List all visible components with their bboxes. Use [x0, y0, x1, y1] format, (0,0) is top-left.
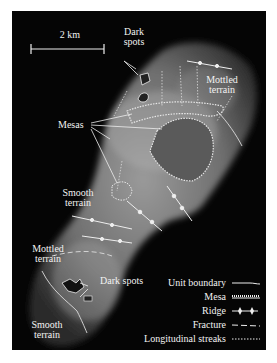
scale-bar-label: 2 km: [55, 30, 85, 40]
label-mottled-terrain-top: Mottled terrain: [202, 75, 242, 95]
label-dark-spots-bottom: Dark spots: [100, 276, 143, 286]
legend-item-unit-boundary: Unit boundary: [168, 277, 262, 289]
geologic-map-image: 2 km Dark spots Mottled terrain Mesas Sm…: [12, 11, 266, 350]
dotted-line-icon: [230, 334, 262, 344]
label-smooth-terrain-bottom: Smooth terrain: [26, 320, 68, 340]
dashed-line-icon: [230, 320, 262, 330]
hatched-line-icon: [230, 292, 262, 302]
label-dark-spots-top: Dark spots: [120, 27, 148, 47]
label-mottled-terrain-bottom: Mottled terrain: [27, 244, 69, 264]
legend-item-mesa: Mesa: [204, 291, 262, 303]
scale-bar-line: [31, 44, 104, 54]
legend-item-longitudinal-streaks: Longitudinal streaks: [144, 333, 262, 345]
solid-line-icon: [230, 278, 262, 288]
legend-item-fracture: Fracture: [193, 319, 262, 331]
label-smooth-terrain-mid: Smooth terrain: [57, 188, 99, 208]
diamond-ticked-line-icon: [230, 306, 262, 316]
label-mesas: Mesas: [58, 120, 84, 130]
legend-item-ridge: Ridge: [202, 305, 262, 317]
